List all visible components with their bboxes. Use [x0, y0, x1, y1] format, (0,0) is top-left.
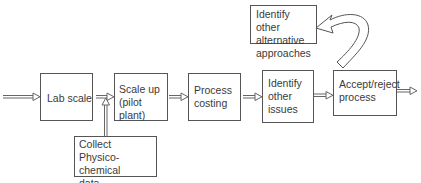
- output-arrow: [397, 87, 417, 95]
- arrow-costing-to-issues: [243, 93, 262, 101]
- node-label: Identify other issues: [268, 77, 302, 116]
- node-label: Scale up (pilot plant): [119, 83, 167, 122]
- node-alternatives: Identify other alternative approaches: [250, 5, 317, 44]
- node-scale-up: Scale up (pilot plant): [114, 73, 168, 121]
- input-arrow: [3, 93, 40, 101]
- node-lab-scale: Lab scale: [40, 73, 93, 121]
- arrow-scaleup-to-costing: [169, 93, 188, 101]
- node-label: Process costing: [194, 84, 232, 110]
- node-label: Collect Physico-chemical data: [79, 138, 156, 183]
- arrow-collect-to-scaleup: [102, 98, 110, 136]
- node-label: Identify other alternative approaches: [256, 8, 316, 60]
- node-accept-reject: Accept/reject process: [333, 70, 397, 116]
- node-identify-issues: Identify other issues: [262, 70, 314, 123]
- curved-feedback-arrow: [316, 15, 369, 68]
- node-process-costing: Process costing: [188, 73, 241, 121]
- node-label: Accept/reject process: [339, 78, 400, 104]
- node-collect-data: Collect Physico-chemical data: [74, 136, 157, 177]
- node-label: Lab scale: [47, 92, 92, 105]
- arrow-issues-to-accept: [314, 92, 333, 100]
